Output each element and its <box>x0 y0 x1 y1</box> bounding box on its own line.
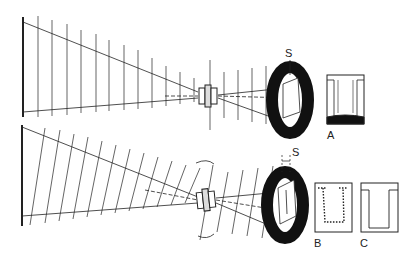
bottom-panel <box>22 125 303 240</box>
grid-lines-top <box>38 16 266 130</box>
lens-bottom <box>196 189 216 212</box>
label-b: B <box>314 237 321 249</box>
label-s-top: S <box>285 47 292 59</box>
inset-c <box>361 183 398 232</box>
top-panel <box>23 16 308 133</box>
label-s-bottom: S <box>292 146 299 158</box>
rotation-arrow-top <box>196 161 214 164</box>
label-c: C <box>360 237 368 249</box>
inset-b <box>315 183 352 232</box>
lens-top <box>199 85 217 107</box>
projection-diagram: S A <box>0 0 418 268</box>
inset-a <box>327 75 364 124</box>
label-a: A <box>327 129 335 141</box>
